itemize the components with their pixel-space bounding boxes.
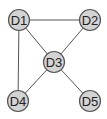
node-d5: D5 xyxy=(80,91,101,112)
node-d2-label: D2 xyxy=(82,13,99,28)
node-d4: D4 xyxy=(8,91,29,112)
node-d3-label: D3 xyxy=(46,55,63,70)
node-d5-label: D5 xyxy=(82,94,99,109)
node-d3: D3 xyxy=(44,52,65,73)
graph-svg: D1 D2 D3 D4 D5 xyxy=(0,0,107,119)
edge-d1-d4 xyxy=(18,20,19,101)
node-d2: D2 xyxy=(80,10,101,31)
nodes-group: D1 D2 D3 D4 D5 xyxy=(8,10,101,112)
graph-diagram: D1 D2 D3 D4 D5 xyxy=(0,0,107,119)
node-d1: D1 xyxy=(9,10,30,31)
node-d4-label: D4 xyxy=(10,94,27,109)
node-d1-label: D1 xyxy=(11,13,28,28)
